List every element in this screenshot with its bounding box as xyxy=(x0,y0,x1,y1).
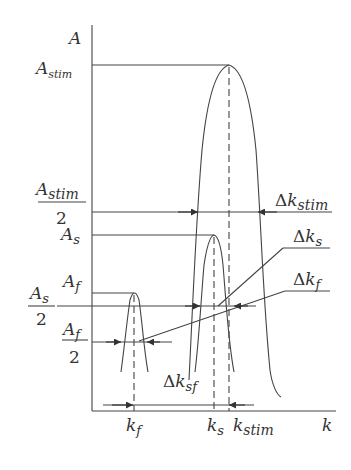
k-stim-label: kstim xyxy=(233,415,274,438)
dk-stim-label: Δkstim xyxy=(275,190,328,213)
a-f-half-denominator: 2 xyxy=(69,347,80,367)
a-f-half-numerator: Af xyxy=(61,319,82,342)
a-stim-half-numerator: Astim xyxy=(34,179,79,202)
k-f-label: kf xyxy=(126,415,143,438)
stim-peak-curve xyxy=(189,65,281,397)
a-s-label: As xyxy=(59,224,80,247)
a-s-half-numerator: As xyxy=(28,283,49,306)
dk-s-leader xyxy=(218,248,283,306)
dk-s-label: Δks xyxy=(293,226,323,249)
a-f-label: Af xyxy=(61,271,82,294)
x-axis-label: k xyxy=(322,415,332,435)
y-axis-label: A xyxy=(67,28,81,48)
a-stim-label: Astim xyxy=(34,58,72,81)
a-s-half-denominator: 2 xyxy=(36,309,47,329)
spectral-peaks-diagram: A k Astim Astim 2 As Af As 2 Af 2 Δkstim… xyxy=(0,0,351,470)
dk-f-label: Δkf xyxy=(293,269,323,292)
dk-sf-label: Δksf xyxy=(163,371,199,394)
dk-f-leader xyxy=(139,291,285,341)
k-s-label: ks xyxy=(207,415,224,438)
